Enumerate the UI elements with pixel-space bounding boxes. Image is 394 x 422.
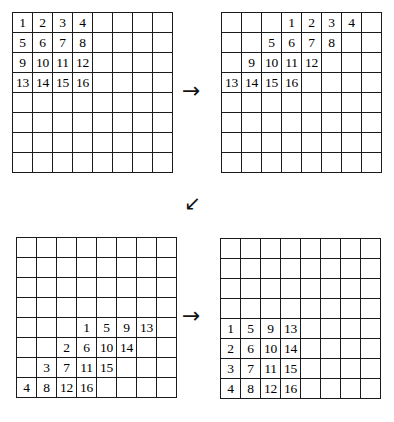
grid-cell-empty bbox=[362, 73, 382, 93]
grid-cell-empty bbox=[262, 13, 282, 33]
grid-cell-empty bbox=[97, 238, 117, 258]
grid-cell-empty bbox=[53, 93, 73, 113]
grid-cell-empty bbox=[221, 239, 241, 259]
grid-cell-empty bbox=[281, 239, 301, 259]
grid-cell-empty bbox=[262, 93, 282, 113]
arrow-down-left-icon: ↙ bbox=[184, 193, 201, 213]
grid-cell-empty bbox=[301, 279, 321, 299]
grid-cell-empty bbox=[321, 339, 341, 359]
grid-cell-filled: 6 bbox=[77, 338, 97, 358]
grid-cell-empty bbox=[113, 153, 133, 173]
grid-cell-empty bbox=[33, 133, 53, 153]
grid-cell-empty bbox=[321, 299, 341, 319]
grid-cell-empty bbox=[93, 33, 113, 53]
grid-cell-filled: 4 bbox=[221, 379, 241, 399]
grid-cell-empty bbox=[157, 238, 177, 258]
grid-cell-filled: 4 bbox=[17, 378, 37, 398]
grid-cell-filled: 12 bbox=[57, 378, 77, 398]
grid-cell-empty bbox=[241, 279, 261, 299]
grid-cell-filled: 14 bbox=[242, 73, 262, 93]
grid-cell-filled: 1 bbox=[77, 318, 97, 338]
grid-cell-empty bbox=[342, 133, 362, 153]
grid-row-sheared-matrix: 12345678910111213141516 bbox=[221, 12, 382, 173]
grid-cell-empty bbox=[157, 298, 177, 318]
grid-cell-filled: 9 bbox=[117, 318, 137, 338]
grid-cell-empty bbox=[261, 239, 281, 259]
grid-cell-empty bbox=[281, 299, 301, 319]
grid-cell-filled: 8 bbox=[37, 378, 57, 398]
grid-cell-empty bbox=[362, 133, 382, 153]
grid-cell-filled: 11 bbox=[282, 53, 302, 73]
arrow-right-icon: → bbox=[182, 80, 200, 102]
grid-cell-empty bbox=[302, 113, 322, 133]
grid-cell-empty bbox=[242, 133, 262, 153]
grid-cell-filled: 16 bbox=[73, 73, 93, 93]
grid-cell-empty bbox=[113, 73, 133, 93]
grid-cell-filled: 9 bbox=[13, 53, 33, 73]
grid-cell-empty bbox=[341, 319, 361, 339]
grid-cell-filled: 5 bbox=[97, 318, 117, 338]
grid-cell-empty bbox=[33, 93, 53, 113]
grid-cell-empty bbox=[153, 153, 173, 173]
grid-cell-empty bbox=[341, 239, 361, 259]
grid-cell-empty bbox=[53, 113, 73, 133]
grid-cell-empty bbox=[341, 359, 361, 379]
grid-cell-empty bbox=[153, 53, 173, 73]
grid-cell-empty bbox=[281, 279, 301, 299]
grid-cell-empty bbox=[222, 93, 242, 113]
grid-cell-empty bbox=[157, 358, 177, 378]
grid-cell-empty bbox=[222, 33, 242, 53]
grid-cell-filled: 10 bbox=[33, 53, 53, 73]
grid-cell-filled: 12 bbox=[261, 379, 281, 399]
grid-cell-empty bbox=[157, 278, 177, 298]
grid-cell-empty bbox=[282, 113, 302, 133]
grid-cell-filled: 3 bbox=[221, 359, 241, 379]
grid-cell-empty bbox=[153, 113, 173, 133]
grid-cell-filled: 8 bbox=[322, 33, 342, 53]
grid-cell-empty bbox=[153, 93, 173, 113]
grid-cell-empty bbox=[242, 153, 262, 173]
grid-cell-filled: 3 bbox=[37, 358, 57, 378]
grid-cell-empty bbox=[302, 73, 322, 93]
grid-cell-filled: 6 bbox=[33, 33, 53, 53]
grid-cell-empty bbox=[361, 339, 381, 359]
grid-cell-empty bbox=[153, 73, 173, 93]
grid-cell-empty bbox=[341, 379, 361, 399]
grid-cell-empty bbox=[241, 299, 261, 319]
grid-cell-empty bbox=[262, 133, 282, 153]
grid-cell-empty bbox=[93, 93, 113, 113]
grid-cell-empty bbox=[341, 259, 361, 279]
grid-cell-empty bbox=[222, 133, 242, 153]
grid-cell-empty bbox=[321, 259, 341, 279]
grid-cell-filled: 2 bbox=[57, 338, 77, 358]
grid-cell-empty bbox=[73, 113, 93, 133]
grid-cell-empty bbox=[361, 359, 381, 379]
grid-cell-empty bbox=[361, 239, 381, 259]
grid-cell-empty bbox=[13, 93, 33, 113]
grid-cell-empty bbox=[321, 319, 341, 339]
grid-cell-empty bbox=[362, 33, 382, 53]
grid-cell-empty bbox=[137, 298, 157, 318]
grid-cell-empty bbox=[321, 279, 341, 299]
grid-cell-empty bbox=[153, 33, 173, 53]
grid-column-sheared-transposed-matrix: 15913261014371115481216 bbox=[16, 237, 177, 398]
grid-final-transposed-matrix: 15913261014371115481216 bbox=[220, 238, 381, 399]
grid-cell-empty bbox=[13, 133, 33, 153]
grid-cell-empty bbox=[137, 258, 157, 278]
grid-cell-filled: 15 bbox=[262, 73, 282, 93]
grid-cell-empty bbox=[33, 153, 53, 173]
grid-cell-filled: 11 bbox=[261, 359, 281, 379]
grid-cell-empty bbox=[302, 133, 322, 153]
grid-cell-filled: 13 bbox=[281, 319, 301, 339]
grid-cell-empty bbox=[322, 93, 342, 113]
grid-cell-filled: 2 bbox=[221, 339, 241, 359]
grid-cell-filled: 5 bbox=[241, 319, 261, 339]
grid-cell-empty bbox=[282, 133, 302, 153]
grid-cell-empty bbox=[221, 299, 241, 319]
grid-cell-empty bbox=[113, 113, 133, 133]
grid-cell-empty bbox=[301, 259, 321, 279]
grid-cell-empty bbox=[97, 298, 117, 318]
grid-cell-empty bbox=[117, 298, 137, 318]
grid-original-matrix: 12345678910111213141516 bbox=[12, 12, 173, 173]
grid-cell-empty bbox=[301, 319, 321, 339]
